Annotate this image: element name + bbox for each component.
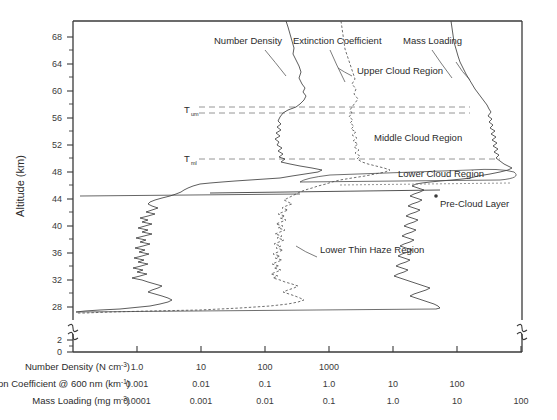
ml-tick-10: 10 [452, 396, 462, 406]
y-tick-68: 68 [52, 32, 62, 42]
ml-tick-1: 1.0 [387, 396, 400, 406]
mass-loading-axis-title: Mass Loading (mg m-3) [32, 395, 130, 406]
ec-tick-001: 0.01 [192, 379, 210, 389]
extinction-coefficient-curve-label: Extinction Coefficient [293, 35, 382, 46]
y-tick-28: 28 [52, 302, 62, 312]
t-ml-symbol: T [184, 153, 190, 164]
y-tick-56: 56 [52, 113, 62, 123]
lower-cloud-region-label: Lower Cloud Region [398, 168, 484, 179]
y-tick-40: 40 [52, 221, 62, 231]
ec-tick-01: 0.1 [259, 379, 272, 389]
ec-tick-0001: 0.001 [126, 379, 149, 389]
nd-tick-10: 10 [196, 362, 206, 372]
y-tick-52: 52 [52, 140, 62, 150]
nd-tick-100: 100 [257, 362, 272, 372]
lower-thin-haze-region-label: Lower Thin Haze Region [320, 244, 424, 255]
y-tick-64: 64 [52, 59, 62, 69]
pre-cloud-layer-label: Pre-Cloud Layer [440, 198, 509, 209]
mass-loading-curve-label: Mass Loading [403, 35, 462, 46]
y-tick-0: 0 [57, 347, 62, 357]
ec-tick-100: 100 [449, 379, 464, 389]
number-density-axis-title: Number Density (N cm-3) [25, 361, 130, 372]
middle-cloud-region-label: Middle Cloud Region [374, 132, 462, 143]
y-tick-48: 48 [52, 167, 62, 177]
upper-cloud-region-label: Upper Cloud Region [357, 65, 443, 76]
y-tick-32: 32 [52, 275, 62, 285]
t-um-subscript: um [191, 111, 199, 117]
y-tick-60: 60 [52, 86, 62, 96]
chart-svg: 68 64 60 56 52 48 44 40 36 32 28 2 0 Alt… [0, 0, 557, 420]
y-tick-44: 44 [52, 194, 62, 204]
pre-cloud-layer-marker [434, 194, 438, 198]
extinction-axis-title: Extinction Coefficient @ 600 nm (km-1) [0, 378, 130, 389]
y-tick-36: 36 [52, 248, 62, 258]
y-axis-title: Altitude (km) [14, 155, 26, 217]
ml-tick-001: 0.01 [256, 396, 274, 406]
venus-aerosol-vertical-profile-figure: 68 64 60 56 52 48 44 40 36 32 28 2 0 Alt… [0, 0, 557, 420]
figure-background [0, 0, 557, 420]
y-tick-2: 2 [57, 335, 62, 345]
ml-tick-01: 0.1 [323, 396, 336, 406]
nd-tick-1000: 1000 [319, 362, 339, 372]
number-density-curve-label: Number Density [214, 35, 282, 46]
ec-tick-1: 1.0 [323, 379, 336, 389]
t-ml-subscript: ml [191, 160, 197, 166]
ml-tick-100: 100 [513, 396, 528, 406]
t-um-symbol: T [184, 104, 190, 115]
nd-tick-1: 1.0 [131, 362, 144, 372]
ec-tick-10: 10 [388, 379, 398, 389]
ml-tick-0001: 0.001 [190, 396, 213, 406]
curve-annotations: Number Density Extinction Coefficient Ma… [214, 35, 462, 46]
ml-tick-00001: 0.0001 [123, 396, 151, 406]
